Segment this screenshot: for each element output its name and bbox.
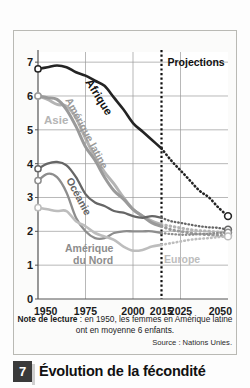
- y-tick-label-0: 0: [27, 293, 33, 305]
- series-label-amerique-du-nord: Amérique: [65, 242, 114, 254]
- y-tick-label-5: 5: [27, 124, 33, 136]
- series-start-marker-oc-anie: [35, 166, 41, 172]
- page-background: 01234567195019752000201520252050Projecti…: [0, 0, 250, 388]
- reading-note: Note de lecture : en 1950, les femmes en…: [16, 314, 234, 335]
- series-start-marker-afrique: [35, 66, 41, 72]
- figure-caption: 7 Évolution de la fécondité: [13, 357, 243, 385]
- chart-canvas: 01234567195019752000201520252050Projecti…: [13, 30, 237, 355]
- reading-note-label: Note de lecture: [18, 314, 78, 324]
- y-tick-label-7: 7: [27, 56, 33, 68]
- figure-title: Évolution de la fécondité: [39, 363, 206, 379]
- series-end-marker-afrique: [225, 213, 232, 220]
- y-tick-label-1: 1: [27, 259, 33, 271]
- projections-label: Projections: [168, 56, 225, 68]
- y-tick-label-3: 3: [27, 191, 33, 203]
- series-label-europe: Europe: [164, 253, 200, 265]
- series-start-marker-am-rique-latine: [35, 93, 41, 99]
- y-tick-label-4: 4: [27, 158, 34, 170]
- series-start-marker-am-rique-du-nord: [35, 177, 41, 183]
- y-tick-label-6: 6: [27, 90, 33, 102]
- series-start-marker-europe: [35, 205, 41, 211]
- figure-number-badge: 7: [13, 361, 32, 382]
- series-end-marker-europe: [225, 233, 232, 240]
- y-tick-label-2: 2: [27, 225, 33, 237]
- fertility-chart: 01234567195019752000201520252050Projecti…: [13, 30, 237, 355]
- series-label-amerique-du-nord-line2: du Nord: [73, 254, 113, 266]
- source-line: Source : Nations Unies.: [16, 338, 232, 347]
- series-label-asie: Asie: [44, 114, 68, 126]
- reading-note-text: : en 1950, les femmes en Amérique latine…: [76, 314, 233, 335]
